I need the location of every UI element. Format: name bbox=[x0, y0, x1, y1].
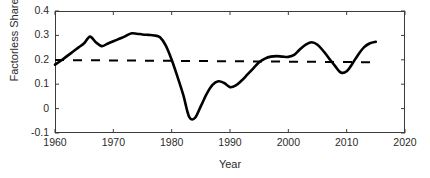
x-tick-label: 2000 bbox=[263, 137, 313, 148]
average-dashed-line bbox=[55, 60, 376, 62]
x-tick-label: 1970 bbox=[88, 137, 138, 148]
y-tick-marks bbox=[55, 11, 405, 133]
x-axis-label: Year bbox=[155, 158, 305, 170]
x-tick-label: 1990 bbox=[205, 137, 255, 148]
x-tick-marks bbox=[55, 11, 405, 133]
x-tick-label: 1980 bbox=[147, 137, 197, 148]
y-axis-label: Factorless Share bbox=[8, 0, 20, 105]
chart-figure: -0.100.10.20.30.4 1960197019801990200020… bbox=[0, 0, 430, 178]
x-tick-label: 1960 bbox=[30, 137, 80, 148]
factorless-share-line bbox=[55, 33, 376, 119]
x-tick-label: 2010 bbox=[322, 137, 372, 148]
chart-canvas bbox=[0, 0, 430, 178]
x-tick-label: 2020 bbox=[380, 137, 430, 148]
